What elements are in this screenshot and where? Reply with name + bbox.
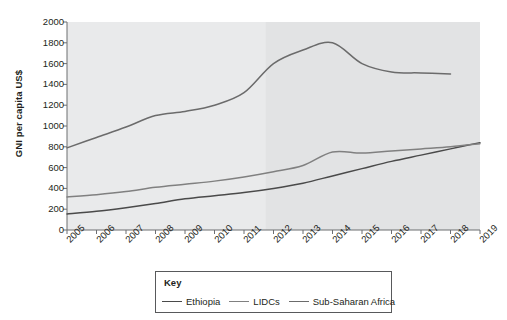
chart-figure: GNI per capita US$ 020040060080010001200… [0, 0, 507, 320]
legend-label: Sub-Saharan Africa [313, 296, 395, 307]
x-tick-label: 2006 [94, 222, 117, 245]
legend-entries: EthiopiaLIDCsSub-Saharan Africa [162, 296, 395, 307]
legend-line-swatch-icon [229, 301, 249, 302]
x-tick-label: 2019 [477, 222, 500, 245]
legend-key-box: Key EthiopiaLIDCsSub-Saharan Africa [155, 271, 392, 313]
x-tick-label: 2015 [359, 222, 382, 245]
legend-label: Ethiopia [186, 296, 220, 307]
x-tick-label: 2014 [330, 222, 353, 245]
x-tick-label: 2011 [241, 223, 263, 245]
legend-title: Key [164, 277, 181, 288]
legend-label: LIDCs [253, 296, 279, 307]
x-tick-label: 2013 [300, 222, 323, 245]
legend-entry: Sub-Saharan Africa [289, 296, 395, 307]
x-tick-label: 2018 [448, 222, 471, 245]
legend-entry: LIDCs [229, 296, 279, 307]
legend-line-swatch-icon [162, 301, 182, 302]
x-tick-label: 2017 [418, 222, 441, 245]
x-tick-label: 2016 [389, 222, 412, 245]
x-tick-label: 2007 [123, 222, 146, 245]
x-tick-label: 2005 [64, 222, 87, 245]
x-tick-label: 2010 [212, 222, 235, 245]
x-tick-label: 2009 [182, 222, 205, 245]
x-tick-label: 2012 [271, 222, 294, 245]
x-tick-label: 2008 [153, 222, 176, 245]
legend-line-swatch-icon [289, 301, 309, 302]
legend-entry: Ethiopia [162, 296, 220, 307]
